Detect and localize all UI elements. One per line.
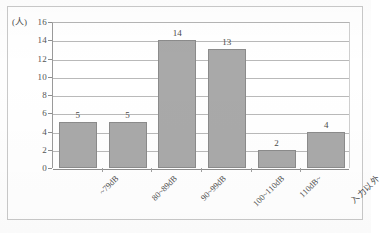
x-axis-tick-mark (201, 168, 202, 172)
bar-value-label: 2 (258, 139, 296, 148)
y-axis-tick-label: 8 (7, 91, 47, 100)
bar (59, 122, 97, 168)
bar-group: 2 (258, 22, 296, 168)
y-axis-tick-label: 0 (7, 164, 47, 173)
bar (258, 150, 296, 168)
gridline (53, 41, 349, 42)
y-axis-tick-label: 14 (7, 36, 47, 45)
x-axis-tick-mark (251, 168, 252, 172)
y-axis-tick-label: 16 (7, 18, 47, 27)
bar-group: 5 (109, 22, 147, 168)
y-axis-tick-label: 12 (7, 55, 47, 64)
plot-area: 55141324 (52, 22, 350, 168)
bar (307, 132, 345, 169)
x-axis-tick-mark (151, 168, 152, 172)
gridline (53, 114, 349, 115)
y-axis-tick-label: 2 (7, 146, 47, 155)
y-axis-tick-label: 4 (7, 128, 47, 137)
y-axis-tick-label: 6 (7, 109, 47, 118)
bar (109, 122, 147, 168)
bar-value-label: 5 (109, 111, 147, 120)
x-axis-tick-mark (102, 168, 103, 172)
bar-group: 13 (208, 22, 246, 168)
gridline (53, 60, 349, 61)
gridline (53, 151, 349, 152)
bar-group: 14 (158, 22, 196, 168)
gridline (53, 133, 349, 134)
gridline (53, 78, 349, 79)
bar-value-label: 14 (158, 29, 196, 38)
bar-value-label: 13 (208, 38, 246, 47)
bar (208, 49, 246, 168)
bar-group: 4 (307, 22, 345, 168)
y-axis-tick-mark (48, 168, 52, 169)
gridline (53, 96, 349, 97)
bar-value-label: 4 (307, 121, 345, 130)
bar (158, 40, 196, 168)
y-axis-tick-label: 10 (7, 73, 47, 82)
bar-value-label: 5 (59, 111, 97, 120)
bar-group: 5 (59, 22, 97, 168)
x-axis-tick-mark (300, 168, 301, 172)
